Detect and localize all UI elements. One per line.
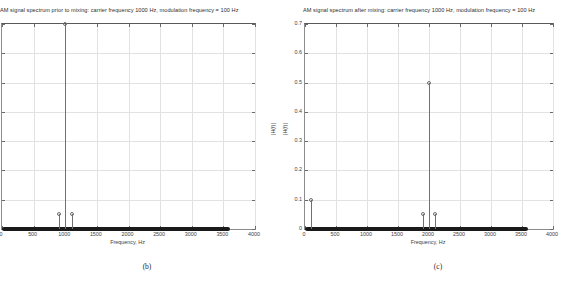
x-axis-tick-label: 0 xyxy=(303,231,306,237)
spectrum-data-point xyxy=(433,212,437,216)
x-axis-tick xyxy=(460,24,461,27)
x-axis-tick xyxy=(223,24,224,27)
grid-line-vertical xyxy=(398,24,399,229)
y-axis-tick xyxy=(2,112,5,113)
x-axis-tick-label: 2500 xyxy=(153,231,165,237)
x-axis-tick-label: 1500 xyxy=(391,231,403,237)
y-axis-tick-label: 0.3 xyxy=(290,137,302,143)
x-axis-title: Frequency, Hz xyxy=(110,239,145,245)
grid-line-horizontal xyxy=(2,170,255,171)
grid-line-vertical xyxy=(255,24,256,229)
spectrum-stem xyxy=(429,83,430,229)
x-axis-tick xyxy=(522,24,523,27)
spectrum-data-point xyxy=(70,212,74,216)
panel-c: AM signal spectrum after mixing: carrier… xyxy=(288,0,575,281)
grid-line-vertical xyxy=(367,24,368,229)
grid-line-vertical xyxy=(34,24,35,229)
x-axis-tick-label: 4000 xyxy=(546,231,558,237)
figure-container: AM signal spectrum prior to mixing: carr… xyxy=(0,0,575,281)
x-axis-tick-label: 1000 xyxy=(360,231,372,237)
spectrum-stem xyxy=(423,214,424,229)
spectrum-stem xyxy=(59,214,60,229)
y-axis-tick xyxy=(550,24,553,25)
y-axis-tick-label: 0.2 xyxy=(290,166,302,172)
y-axis-tick xyxy=(252,24,255,25)
x-axis-tick-label: 3000 xyxy=(185,231,197,237)
x-axis-tick-label: 0 xyxy=(0,231,3,237)
grid-line-vertical xyxy=(491,24,492,229)
y-axis-tick xyxy=(550,200,553,201)
y-axis-tick xyxy=(305,53,308,54)
y-axis-tick xyxy=(252,141,255,142)
grid-line-vertical xyxy=(522,24,523,229)
y-axis-tick xyxy=(305,200,308,201)
y-axis-tick-label: 0.1 xyxy=(290,196,302,202)
x-axis-tick xyxy=(97,24,98,27)
grid-line-vertical xyxy=(336,24,337,229)
subfigure-caption-c: (c) xyxy=(434,262,442,271)
y-axis-tick-label: 0 xyxy=(290,225,302,231)
grid-line-horizontal xyxy=(2,83,255,84)
x-axis-tick-label: 3000 xyxy=(484,231,496,237)
y-axis-tick-label: 0.7 xyxy=(290,20,302,26)
spectrum-data-point xyxy=(63,22,67,26)
x-axis-tick-label: 3500 xyxy=(216,231,228,237)
y-axis-title: |H(f)| xyxy=(270,123,276,135)
y-axis-tick xyxy=(2,141,5,142)
y-axis-tick xyxy=(550,229,553,230)
y-axis-tick xyxy=(305,141,308,142)
y-axis-tick xyxy=(305,170,308,171)
x-axis-tick-label: 500 xyxy=(28,231,37,237)
y-axis-tick xyxy=(252,83,255,84)
grid-line-horizontal xyxy=(2,112,255,113)
x-axis-tick xyxy=(398,24,399,27)
x-axis-tick-label: 1500 xyxy=(90,231,102,237)
y-axis-tick xyxy=(305,112,308,113)
spectrum-stem xyxy=(311,200,312,229)
spectrum-data-point xyxy=(421,212,425,216)
x-axis-tick xyxy=(192,24,193,27)
y-axis-tick xyxy=(305,24,308,25)
x-axis-tick-label: 2000 xyxy=(422,231,434,237)
spectrum-data-point xyxy=(57,212,61,216)
y-axis-tick xyxy=(252,229,255,230)
y-axis-tick xyxy=(305,83,308,84)
y-axis-tick xyxy=(550,141,553,142)
y-axis-tick xyxy=(252,112,255,113)
x-axis-tick-label: 2000 xyxy=(122,231,134,237)
x-axis-tick xyxy=(553,226,554,229)
grid-line-horizontal xyxy=(305,53,553,54)
x-axis-tick xyxy=(336,24,337,27)
grid-line-vertical xyxy=(553,24,554,229)
x-axis-tick xyxy=(255,24,256,27)
grid-line-vertical xyxy=(160,24,161,229)
x-axis-tick xyxy=(129,24,130,27)
y-axis-tick xyxy=(2,83,5,84)
y-axis-tick-label: 0.4 xyxy=(290,108,302,114)
y-axis-tick-label: 0.5 xyxy=(290,79,302,85)
y-axis-tick xyxy=(550,112,553,113)
x-axis-tick-label: 3500 xyxy=(515,231,527,237)
y-axis-tick xyxy=(550,53,553,54)
subfigure-caption-b: (b) xyxy=(143,262,152,271)
x-axis-tick xyxy=(367,24,368,27)
y-axis-tick xyxy=(550,83,553,84)
x-axis-tick xyxy=(491,24,492,27)
x-axis-tick-label: 2500 xyxy=(453,231,465,237)
y-axis-title: |H(f)| xyxy=(282,123,288,135)
plot-area-b xyxy=(1,23,256,230)
x-axis-tick-label: 500 xyxy=(331,231,340,237)
x-axis-title: Frequency, Hz xyxy=(411,239,446,245)
panel-b: AM signal spectrum prior to mixing: carr… xyxy=(0,0,288,281)
spectrum-stem xyxy=(72,214,73,229)
y-axis-tick xyxy=(252,170,255,171)
spectrum-data-point xyxy=(309,198,313,202)
grid-line-horizontal xyxy=(2,141,255,142)
y-axis-tick xyxy=(2,200,5,201)
y-axis-tick xyxy=(252,200,255,201)
x-axis-tick xyxy=(429,24,430,27)
y-axis-tick xyxy=(2,24,5,25)
spectrum-stem xyxy=(65,24,66,229)
x-axis-tick xyxy=(255,226,256,229)
grid-line-vertical xyxy=(223,24,224,229)
